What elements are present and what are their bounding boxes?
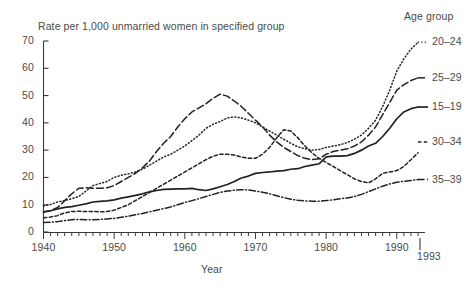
y-tick-label: 60 xyxy=(12,61,34,73)
x-tick-label: 1950 xyxy=(94,241,134,253)
y-tick-label: 30 xyxy=(12,143,34,155)
legend-item-15-19: 15–19 xyxy=(432,100,462,112)
y-tick-label: 50 xyxy=(12,89,34,101)
x-tick-label: 1940 xyxy=(24,241,64,253)
legend-item-30-34: 30–34 xyxy=(432,135,462,147)
legend-title: Age group xyxy=(404,10,453,22)
y-tick-label: 40 xyxy=(12,116,34,128)
legend-item-35-39: 35–39 xyxy=(432,173,462,185)
series-line-25-29 xyxy=(44,78,419,212)
y-tick-label: 70 xyxy=(12,34,34,46)
legend-item-20-24: 20–24 xyxy=(432,35,462,47)
x-tick-label: 1990 xyxy=(377,241,417,253)
y-tick-marks xyxy=(44,41,49,232)
end-year-label: 1993 xyxy=(417,250,441,262)
chart-title: Rate per 1,000 unmarried women in specif… xyxy=(38,20,285,32)
axes xyxy=(44,41,426,250)
y-tick-label: 20 xyxy=(12,170,34,182)
y-tick-label: 10 xyxy=(12,198,34,210)
legend-item-25-29: 25–29 xyxy=(432,71,462,83)
y-tick-label: 0 xyxy=(12,225,34,237)
data-series-group xyxy=(44,42,419,222)
x-tick-label: 1970 xyxy=(235,241,275,253)
series-line-30-34 xyxy=(44,130,419,218)
x-tick-label: 1960 xyxy=(165,241,205,253)
x-axis-title: Year xyxy=(201,263,223,275)
series-line-15-19 xyxy=(44,107,419,212)
legend-leader-lines xyxy=(418,42,428,179)
x-tick-label: 1980 xyxy=(306,241,346,253)
figure-line-chart: Rate per 1,000 unmarried women in specif… xyxy=(0,0,475,293)
